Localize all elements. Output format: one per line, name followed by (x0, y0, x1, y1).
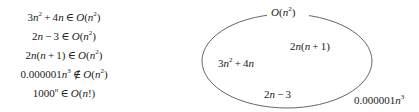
member-2n-n-plus-1: 2n(n + 1) (290, 40, 330, 52)
set-label: O(n2) (271, 6, 295, 18)
member-3n2-plus-4n: 3n2 + 4n (218, 57, 254, 69)
member-2n-minus-3: 2n − 3 (264, 88, 291, 100)
non-member-cubic: 0.000001n3 (354, 94, 404, 106)
